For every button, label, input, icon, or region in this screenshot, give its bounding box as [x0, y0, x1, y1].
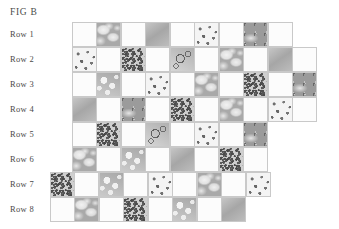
grid-cell-micrograph	[292, 72, 317, 97]
figure-title: FIG B	[10, 7, 38, 17]
grid-cell-blank	[50, 197, 75, 222]
grid-cell-micrograph	[172, 197, 197, 222]
grid-cell-micrograph	[194, 22, 219, 47]
grid-cell-blank	[145, 147, 170, 172]
grid-cell-micrograph	[121, 97, 146, 122]
grid-cell-micrograph	[197, 172, 222, 197]
grid-cell-blank	[123, 172, 148, 197]
grid-cell-micrograph	[74, 197, 99, 222]
grid-cell-micrograph	[72, 97, 97, 122]
grid-cell-micrograph	[194, 122, 219, 147]
grid-row-3	[72, 72, 317, 97]
grid-cell-blank	[172, 172, 197, 197]
grid-cell-micrograph	[194, 72, 219, 97]
grid-cell-micrograph	[96, 22, 121, 47]
grid-cell-micrograph	[148, 172, 173, 197]
grid-cell-micrograph	[243, 22, 268, 47]
grid-cell-blank	[268, 72, 293, 97]
grid-cell-micrograph	[72, 47, 97, 72]
grid-cell-micrograph	[96, 72, 121, 97]
grid-cell-blank	[170, 72, 195, 97]
grid-cell-blank	[72, 122, 97, 147]
grid-cell-blank	[197, 197, 222, 222]
grid-cell-micrograph	[219, 147, 244, 172]
grid-cell-micrograph	[96, 122, 121, 147]
grid-row-7	[50, 172, 271, 197]
grid-cell-blank	[194, 147, 219, 172]
grid-cell-micrograph	[145, 22, 170, 47]
grid-cell-blank	[121, 72, 146, 97]
row-label-3: Row 3	[10, 79, 34, 89]
grid-cell-micrograph	[221, 197, 246, 222]
grid-cell-micrograph	[121, 47, 146, 72]
grid-cell-blank	[74, 172, 99, 197]
grid-cell-blank	[292, 97, 317, 122]
grid-row-1	[72, 22, 293, 47]
grid-cell-micrograph	[50, 172, 75, 197]
grid-cell-blank	[96, 97, 121, 122]
grid-cell-blank	[194, 47, 219, 72]
grid-cell-micrograph	[170, 147, 195, 172]
row-label-2: Row 2	[10, 54, 34, 64]
grid-cell-blank	[243, 47, 268, 72]
grid-cell-blank	[121, 22, 146, 47]
row-label-6: Row 6	[10, 154, 34, 164]
grid-cell-blank	[72, 22, 97, 47]
row-label-5: Row 5	[10, 129, 34, 139]
row-label-4: Row 4	[10, 104, 34, 114]
grid-cell-blank	[145, 97, 170, 122]
grid-cell-micrograph	[170, 47, 195, 72]
grid-cell-blank	[194, 97, 219, 122]
grid-cell-micrograph	[219, 97, 244, 122]
grid-cell-blank	[72, 72, 97, 97]
grid-cell-micrograph	[145, 72, 170, 97]
grid-cell-micrograph	[99, 172, 124, 197]
grid-cell-micrograph	[268, 97, 293, 122]
grid-cell-blank	[170, 122, 195, 147]
grid-cell-blank	[96, 147, 121, 172]
grid-cell-blank	[219, 22, 244, 47]
grid-row-5	[72, 122, 268, 147]
grid-row-4	[72, 97, 317, 122]
grid-cell-micrograph	[246, 172, 271, 197]
grid-cell-blank	[221, 172, 246, 197]
grid-row-6	[72, 147, 268, 172]
grid-cell-blank	[96, 47, 121, 72]
grid-cell-micrograph	[243, 72, 268, 97]
grid-cell-blank	[145, 47, 170, 72]
grid-cell-blank	[219, 122, 244, 147]
grid-cell-micrograph	[145, 122, 170, 147]
grid-cell-blank	[268, 22, 293, 47]
grid-cell-micrograph	[268, 47, 293, 72]
grid-cell-blank	[99, 197, 124, 222]
grid-cell-blank	[292, 47, 317, 72]
grid-cell-micrograph	[121, 147, 146, 172]
grid-cell-blank	[170, 22, 195, 47]
grid-row-8	[50, 197, 246, 222]
grid-cell-blank	[219, 72, 244, 97]
grid-cell-micrograph	[123, 197, 148, 222]
grid-cell-blank	[121, 122, 146, 147]
grid-cell-micrograph	[170, 97, 195, 122]
grid-cell-micrograph	[243, 122, 268, 147]
grid-cell-blank	[148, 197, 173, 222]
row-label-1: Row 1	[10, 29, 34, 39]
row-label-7: Row 7	[10, 179, 34, 189]
grid-row-2	[72, 47, 317, 72]
grid-cell-blank	[243, 147, 268, 172]
grid-cell-blank	[243, 97, 268, 122]
row-label-8: Row 8	[10, 204, 34, 214]
grid-cell-micrograph	[219, 47, 244, 72]
grid-cell-micrograph	[72, 147, 97, 172]
figure-root: FIG B Row 1Row 2Row 3Row 4Row 5Row 6Row …	[0, 0, 339, 229]
